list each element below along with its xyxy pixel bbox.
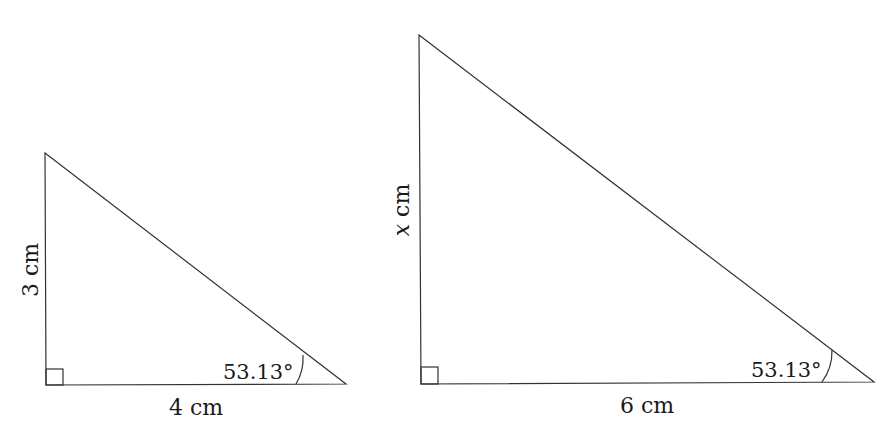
large-triangle-outline <box>419 35 874 384</box>
small-triangle-outline <box>45 153 346 385</box>
base-label: 4 cm <box>169 395 223 420</box>
right-angle-marker <box>421 367 438 384</box>
angle-label: 53.13° <box>223 360 294 384</box>
angle-arc <box>822 350 832 382</box>
variable-x: x <box>389 223 414 236</box>
right-angle-marker <box>46 369 63 385</box>
vertical-side-label: x cm <box>389 184 414 237</box>
large-triangle: 53.13° 6 cm x cm <box>389 35 874 418</box>
similar-triangles-diagram: 53.13° 4 cm 3 cm 53.13° 6 cm x cm <box>0 0 896 432</box>
vertical-side-label: 3 cm <box>18 243 43 297</box>
unit-cm: cm <box>389 184 414 224</box>
small-triangle: 53.13° 4 cm 3 cm <box>18 153 346 420</box>
angle-label: 53.13° <box>751 358 822 382</box>
base-label: 6 cm <box>620 393 674 418</box>
angle-arc <box>296 355 303 384</box>
